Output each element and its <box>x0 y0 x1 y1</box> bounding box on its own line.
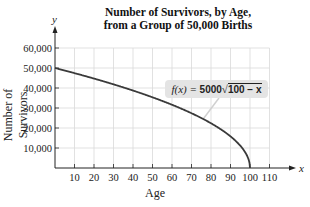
x-tick-label: 30 <box>108 172 119 183</box>
y-tick-label: 60,000 <box>23 43 52 54</box>
function-label: f(x) = 5000√100 − x <box>165 80 268 98</box>
x-tick-label: 70 <box>186 172 197 183</box>
x-tick-label: 100 <box>242 172 258 183</box>
plot-area: xy10203040506070809010011010,00020,00030… <box>0 0 310 207</box>
y-axis-arrow-icon <box>53 26 58 33</box>
x-tick-label: 20 <box>89 172 100 183</box>
function-coefficient: 5000 <box>200 84 222 95</box>
y-axis-label: Number of Survivors <box>1 65 31 165</box>
x-tick-label: 90 <box>225 172 236 183</box>
x-tick-label: 60 <box>167 172 178 183</box>
x-axis-arrow-icon <box>289 166 296 171</box>
sqrt-icon: √ <box>222 83 228 95</box>
x-axis-variable: x <box>298 162 304 174</box>
x-tick-label: 40 <box>128 172 139 183</box>
x-tick-label: 50 <box>147 172 158 183</box>
x-tick-label: 10 <box>69 172 80 183</box>
x-tick-label: 80 <box>206 172 217 183</box>
function-radicand: 100 − x <box>228 83 262 95</box>
function-prefix: f(x) = <box>171 83 199 95</box>
x-tick-label: 110 <box>262 172 277 183</box>
x-axis-label: Age <box>55 186 255 201</box>
y-axis-variable: y <box>51 13 57 25</box>
